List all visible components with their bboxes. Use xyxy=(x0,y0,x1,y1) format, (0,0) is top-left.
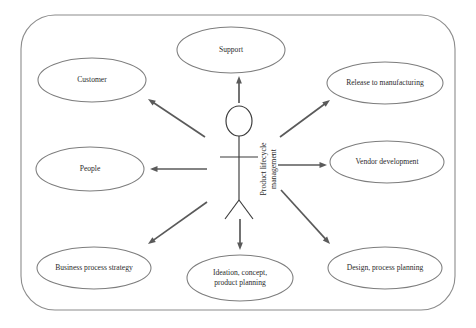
use-case-diagram: SupportCustomerRelease to manufacturingP… xyxy=(0,0,476,328)
use-case-label: Customer xyxy=(77,75,107,84)
use-case-vendor-development[interactable]: Vendor development xyxy=(330,141,444,183)
use-case-label: Business process strategy xyxy=(55,263,133,272)
actor-leg-left xyxy=(225,200,239,219)
use-case-diagram-canvas: SupportCustomerRelease to manufacturingP… xyxy=(0,0,476,328)
use-case-label: Support xyxy=(219,45,244,54)
use-case-release-to-manufacturing[interactable]: Release to manufacturing xyxy=(327,62,443,104)
association-line xyxy=(151,202,207,242)
actor-leg-right xyxy=(239,200,253,219)
use-case-label: Ideation, concept, xyxy=(213,268,267,277)
arrow-head-icon xyxy=(236,76,242,84)
association-line xyxy=(281,190,327,241)
association-actor-to-vendor-development[interactable] xyxy=(278,162,327,168)
association-actor-to-support[interactable] xyxy=(236,76,242,103)
association-actor-to-release-to-manufacturing[interactable] xyxy=(280,100,330,137)
use-case-label: Design, process planning xyxy=(347,263,424,272)
arrow-head-icon xyxy=(320,162,328,168)
actor-label-line2: management xyxy=(269,148,278,189)
use-case-label: Release to manufacturing xyxy=(346,78,424,87)
use-case-ideation-concept-product-planning[interactable]: Ideation, concept,product planning xyxy=(187,255,293,301)
use-case-people[interactable]: People xyxy=(36,147,144,191)
use-case-label: Vendor development xyxy=(355,157,419,166)
actor-figure[interactable]: Product lifecycle management xyxy=(220,106,278,219)
association-actor-to-people[interactable] xyxy=(150,166,207,172)
arrow-head-icon xyxy=(150,166,158,172)
use-case-customer[interactable]: Customer xyxy=(38,58,146,102)
use-case-business-process-strategy[interactable]: Business process strategy xyxy=(37,247,151,289)
association-actor-to-business-process-strategy[interactable] xyxy=(148,202,207,244)
use-case-label: People xyxy=(80,164,101,173)
arrow-head-icon xyxy=(148,99,156,106)
use-case-support[interactable]: Support xyxy=(177,27,285,73)
association-line xyxy=(280,102,327,137)
association-line xyxy=(151,101,205,137)
actor-label-group: Product lifecycle management xyxy=(259,142,278,196)
association-actor-to-customer[interactable] xyxy=(148,99,205,137)
arrow-head-icon xyxy=(237,243,243,251)
use-cases-group: SupportCustomerRelease to manufacturingP… xyxy=(36,27,444,301)
actor-head-icon xyxy=(226,106,252,136)
use-case-design-process-planning[interactable]: Design, process planning xyxy=(328,247,442,289)
use-case-label: product planning xyxy=(214,278,266,287)
association-actor-to-ideation-concept-product-planning[interactable] xyxy=(237,219,243,250)
association-actor-to-design-process-planning[interactable] xyxy=(281,190,330,244)
actor-label-line1: Product lifecycle xyxy=(259,142,268,196)
